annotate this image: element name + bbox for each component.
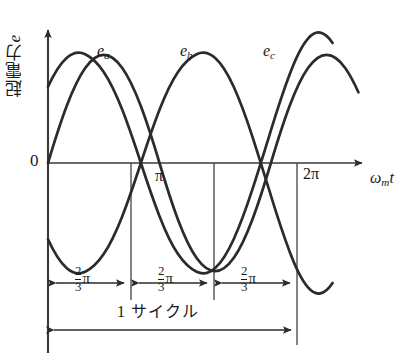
interval-fraction-1: 2 3 [75,265,81,294]
x-tick-label-2pi: 2π [303,166,319,182]
interval-1-denominator: 3 [75,281,81,294]
curve-label-ec-sub: c [270,49,275,61]
interval-2-suffix: π [165,270,173,286]
three-phase-waveform-figure: 起電力e [0,0,416,353]
x-tick-label-pi: π [155,168,163,184]
curve-label-ec: ec [263,43,275,61]
interval-label-1: 2 3 π [74,265,90,294]
interval-fraction-2: 2 3 [158,265,164,294]
cycle-label: 1 サイクル [117,304,199,320]
interval-1-numerator: 2 [75,265,81,278]
x-axis-label-omega: ω [370,169,381,186]
curve-label-eb: eb [180,43,193,61]
interval-1-suffix: π [82,270,90,286]
curve-ec [48,32,333,273]
x-axis-label-t: t [389,169,393,186]
curve-label-ea: ea [97,43,110,61]
interval-label-2: 2 3 π [157,265,173,294]
curve-eb [48,53,333,294]
axes [48,30,362,353]
figure-canvas [0,0,416,353]
interval-2-denominator: 3 [158,281,164,294]
x-axis-label: ωmt [370,170,394,188]
interval-label-3: 2 3 π [240,265,256,294]
interval-fraction-3: 2 3 [241,265,247,294]
interval-2-numerator: 2 [158,265,164,278]
interval-3-denominator: 3 [241,281,247,294]
origin-label: 0 [30,152,39,169]
interval-3-numerator: 2 [241,265,247,278]
curve-label-ea-sub: a [104,49,110,61]
interval-3-suffix: π [248,270,256,286]
curve-label-eb-sub: b [187,49,193,61]
